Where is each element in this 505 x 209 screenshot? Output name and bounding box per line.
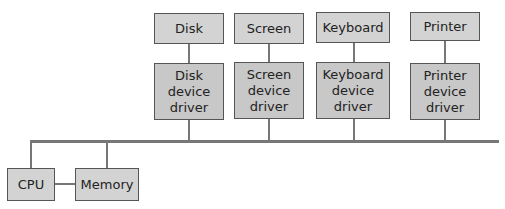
printer-connector: [444, 41, 446, 63]
disk-label: Disk: [175, 21, 203, 37]
cpu-box: CPU: [7, 168, 55, 201]
disk-driver-bus-connector: [188, 120, 190, 141]
screen-driver-box: Screen device driver: [234, 62, 304, 119]
disk-driver-label: Disk device driver: [168, 68, 211, 116]
cpu-bus-connector: [30, 140, 32, 169]
screen-connector: [268, 44, 270, 62]
printer-device-box: Printer: [410, 12, 480, 41]
keyboard-connector: [353, 43, 355, 62]
disk-driver-box: Disk device driver: [154, 63, 224, 120]
keyboard-driver-label: Keyboard device driver: [322, 67, 383, 115]
memory-box: Memory: [75, 168, 139, 201]
screen-device-box: Screen: [234, 13, 304, 44]
memory-label: Memory: [81, 177, 134, 193]
printer-driver-bus-connector: [444, 120, 446, 141]
memory-bus-connector: [106, 140, 108, 169]
keyboard-label: Keyboard: [322, 20, 383, 36]
printer-label: Printer: [423, 19, 466, 35]
cpu-memory-link: [55, 183, 75, 185]
keyboard-driver-bus-connector: [353, 119, 355, 141]
screen-driver-label: Screen device driver: [247, 67, 292, 115]
cpu-label: CPU: [18, 177, 44, 193]
disk-connector: [188, 44, 190, 63]
screen-driver-bus-connector: [268, 119, 270, 141]
screen-label: Screen: [247, 21, 292, 37]
device-driver-diagram: Disk Disk device driver Screen Screen de…: [0, 0, 505, 209]
disk-device-box: Disk: [154, 13, 224, 44]
system-bus: [30, 140, 499, 143]
keyboard-driver-box: Keyboard device driver: [316, 62, 390, 119]
printer-driver-label: Printer device driver: [423, 68, 466, 116]
keyboard-device-box: Keyboard: [316, 12, 390, 43]
printer-driver-box: Printer device driver: [410, 63, 480, 120]
